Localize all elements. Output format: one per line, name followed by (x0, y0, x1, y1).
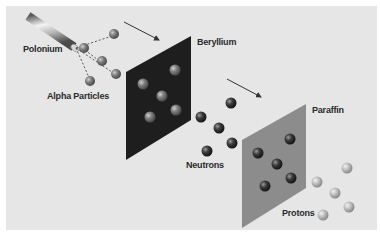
diagram-scene (0, 0, 380, 232)
label-beryllium: Beryllium (197, 37, 236, 47)
label-protons: Protons (282, 208, 315, 218)
label-paraffin: Paraffin (312, 105, 344, 115)
label-polonium: Polonium (23, 44, 62, 54)
direction-arrow-1 (124, 22, 159, 40)
protons (312, 163, 355, 221)
direction-arrow-2 (227, 79, 261, 97)
alpha-trajectories (76, 36, 115, 82)
label-neutrons: Neutrons (186, 160, 224, 170)
label-alpha-particles: Alpha Particles (47, 91, 109, 101)
neutrons (196, 98, 238, 157)
alpha-particles (79, 29, 121, 86)
